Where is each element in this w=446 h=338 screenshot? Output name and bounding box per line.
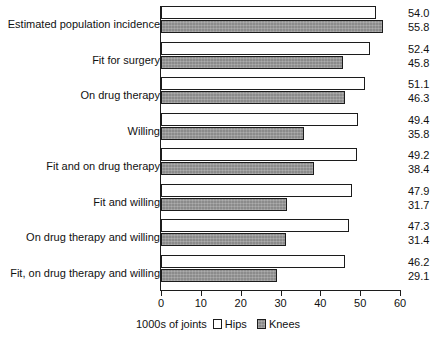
value-label-hips-1: 52.4	[408, 43, 429, 55]
bar-knees-6	[161, 233, 286, 246]
value-label-knees-0: 55.8	[408, 21, 429, 33]
x-tick-20	[241, 291, 242, 296]
x-tick-40	[320, 291, 321, 296]
bar-hips-3	[161, 113, 358, 126]
value-label-knees-3: 35.8	[408, 128, 429, 140]
legend-label-hips: Hips	[225, 318, 247, 330]
bar-knees-3	[161, 127, 304, 140]
category-label-2: On drug therapy	[81, 89, 161, 101]
value-label-knees-4: 38.4	[408, 163, 429, 175]
value-label-hips-4: 49.2	[408, 149, 429, 161]
x-tick-50	[360, 291, 361, 296]
bar-hips-1	[161, 42, 370, 55]
x-tick-label-60: 60	[385, 297, 415, 309]
bar-knees-5	[161, 198, 287, 211]
category-label-6: On drug therapy and willing	[26, 231, 160, 243]
x-tick-label-40: 40	[305, 297, 335, 309]
value-label-knees-2: 46.3	[408, 92, 429, 104]
category-label-0: Estimated population incidence	[8, 18, 160, 30]
bar-hips-2	[161, 77, 365, 90]
x-tick-label-20: 20	[226, 297, 256, 309]
bar-hips-7	[161, 255, 345, 268]
legend-swatch-hips-icon	[213, 319, 222, 329]
x-tick-label-30: 30	[266, 297, 296, 309]
bar-knees-1	[161, 56, 343, 69]
bar-hips-6	[161, 219, 349, 232]
category-label-3: Willing	[128, 125, 160, 137]
value-label-knees-5: 31.7	[408, 199, 429, 211]
value-label-knees-7: 29.1	[408, 270, 429, 282]
x-tick-label-0: 0	[146, 297, 176, 309]
x-tick-label-50: 50	[345, 297, 375, 309]
category-label-7: Fit, on drug therapy and willing	[10, 267, 160, 279]
x-tick-60	[400, 291, 401, 296]
x-tick-label-10: 10	[186, 297, 216, 309]
bar-hips-0	[161, 6, 376, 19]
bar-knees-4	[161, 162, 314, 175]
x-tick-0	[161, 291, 162, 296]
bar-knees-2	[161, 91, 345, 104]
x-tick-30	[281, 291, 282, 296]
bar-chart: Estimated population incidenceFit for su…	[0, 0, 446, 338]
category-label-4: Fit and on drug therapy	[46, 160, 160, 172]
legend-entry-hips: Hips	[213, 318, 247, 330]
legend-swatch-knees-icon	[257, 319, 266, 329]
plot-area	[161, 6, 400, 290]
bar-hips-4	[161, 148, 357, 161]
bar-hips-5	[161, 184, 352, 197]
legend-label-knees: Knees	[269, 318, 300, 330]
category-label-5: Fit and willing	[93, 196, 160, 208]
x-tick-10	[201, 291, 202, 296]
value-label-hips-0: 54.0	[408, 7, 429, 19]
bar-knees-0	[161, 20, 383, 33]
legend-unit-label: 1000s of joints	[136, 318, 207, 330]
bar-knees-7	[161, 269, 277, 282]
value-label-hips-6: 47.3	[408, 220, 429, 232]
value-label-knees-6: 31.4	[408, 234, 429, 246]
value-label-hips-7: 46.2	[408, 256, 429, 268]
value-label-hips-5: 47.9	[408, 185, 429, 197]
category-label-1: Fit for surgery	[92, 54, 160, 66]
value-label-knees-1: 45.8	[408, 57, 429, 69]
legend-entry-knees: Knees	[257, 318, 300, 330]
value-label-hips-3: 49.4	[408, 114, 429, 126]
value-label-hips-2: 51.1	[408, 78, 429, 90]
chart-legend: 1000s of jointsHipsKnees	[0, 318, 446, 331]
